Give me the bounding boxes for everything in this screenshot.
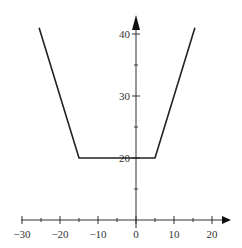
x-tick-label: 0: [133, 228, 139, 240]
chart: −30−20−1001020 203040: [0, 0, 242, 248]
x-tick-label: −20: [51, 228, 69, 240]
series-line: [39, 28, 195, 158]
x-axis: −30−20−1001020: [13, 216, 231, 240]
plot-series: [39, 28, 195, 158]
x-tick-label: 20: [207, 228, 219, 240]
x-tick-label: −30: [13, 228, 31, 240]
x-tick-label: −10: [89, 228, 107, 240]
y-axis: 203040: [119, 15, 140, 228]
y-tick-label: 30: [119, 90, 131, 102]
y-axis-arrow-icon: [132, 15, 140, 30]
x-tick-label: 10: [169, 228, 181, 240]
y-tick-label: 40: [119, 28, 131, 40]
x-axis-arrow-icon: [222, 216, 231, 224]
